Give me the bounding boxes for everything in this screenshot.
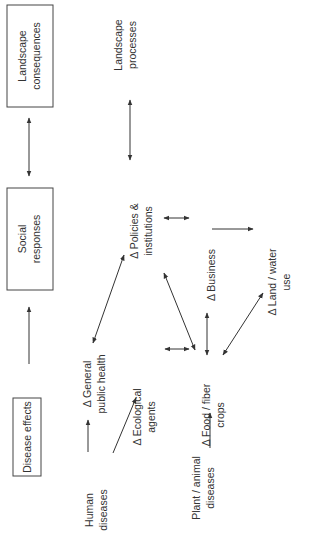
policies-food-arrow — [164, 273, 195, 350]
ecological-label-1: Δ Ecological — [131, 388, 143, 445]
landscape-consequences-label-1: Landscape — [16, 30, 28, 82]
food-fiber-label-2: crops — [214, 402, 226, 428]
policies-label-1: Δ Policies & — [128, 203, 140, 258]
landscape-processes-label-2: processes — [126, 21, 138, 69]
landscape-consequences-label-2: consequences — [30, 22, 42, 90]
plant-animal-label-1: Plant / animal — [190, 456, 202, 520]
public-health-label-2: public health — [95, 354, 107, 413]
human-diseases-label-1: Human — [83, 493, 95, 527]
policies-label-2: institutions — [142, 206, 154, 256]
food-land-arrow — [223, 293, 263, 355]
disease-effects-label: Disease effects — [21, 401, 33, 473]
social-responses-label-2: responses — [30, 215, 42, 263]
landscape-processes-label-1: Landscape — [112, 19, 124, 71]
human-diseases-label-2: diseases — [97, 489, 109, 530]
business-label: Δ Business — [205, 249, 217, 301]
health-policies-arrow — [93, 255, 124, 343]
disease-landscape-diagram: Landscape consequences Social responses … — [0, 0, 309, 545]
social-responses-label-1: Social — [16, 225, 28, 254]
public-health-label-1: Δ General — [81, 361, 93, 408]
plant-animal-label-2: diseases — [204, 467, 216, 508]
land-water-label-1: Δ Land / water — [266, 248, 278, 316]
ecological-label-2: agents — [145, 401, 157, 433]
land-water-label-2: use — [280, 273, 292, 290]
